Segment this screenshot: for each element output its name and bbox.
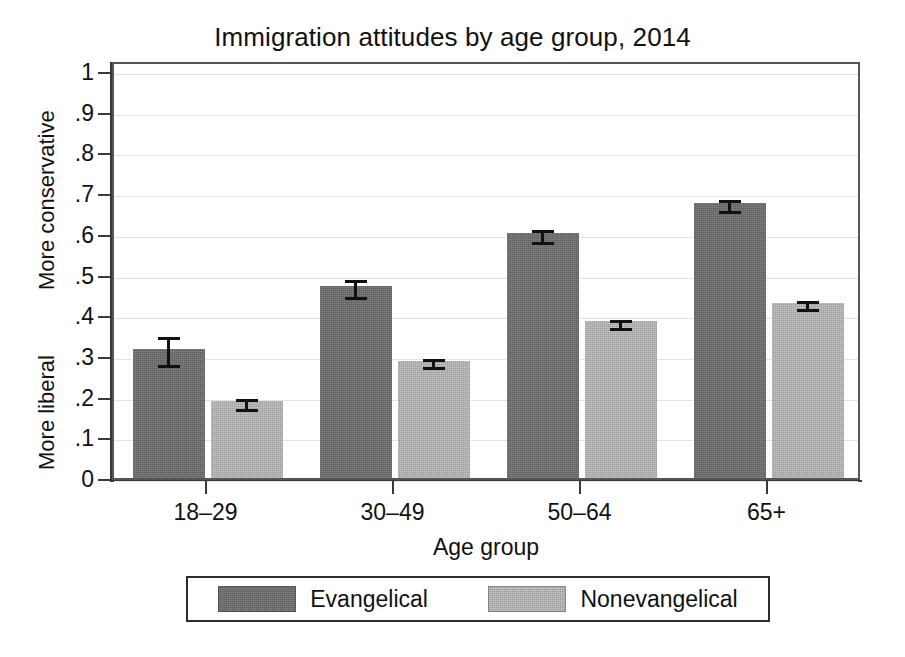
bar-evangelical-3 <box>694 203 766 478</box>
error-bar-cap-bottom <box>797 309 819 312</box>
plot-area <box>112 62 860 480</box>
error-bar-stem <box>167 337 170 368</box>
x-axis-tick-label: 30–49 <box>313 499 473 526</box>
error-bar-cap-bottom <box>532 242 554 245</box>
error-bar-cap-bottom <box>423 367 445 370</box>
y-axis-tick <box>98 72 111 74</box>
error-bar-cap-bottom <box>158 365 180 368</box>
legend-swatch-icon <box>218 586 296 612</box>
bar-nonevangelical-3 <box>772 303 844 478</box>
error-bar-cap-top <box>236 399 258 402</box>
error-bar-cap-top <box>797 301 819 304</box>
error-bar-cap-bottom <box>719 211 741 214</box>
y-axis-tick <box>98 235 111 237</box>
bar-evangelical-1 <box>320 286 392 478</box>
bar-nonevangelical-2 <box>585 321 657 478</box>
y-axis-title-conservative: More conservative <box>34 110 60 290</box>
y-axis-tick <box>98 438 111 440</box>
legend-label: Evangelical <box>310 586 428 613</box>
y-axis-tick <box>98 113 111 115</box>
y-axis-tick <box>98 398 111 400</box>
y-axis-tick <box>98 194 111 196</box>
x-axis-tick-label: 50–64 <box>500 499 660 526</box>
error-bar-cap-top <box>610 320 632 323</box>
y-axis-tick <box>98 479 111 481</box>
bar-evangelical-2 <box>507 233 579 478</box>
chart-figure: Immigration attitudes by age group, 2014… <box>0 0 905 657</box>
error-bar-cap-bottom <box>610 328 632 331</box>
bar-evangelical-0 <box>133 349 205 478</box>
error-bar-cap-bottom <box>345 297 367 300</box>
error-bar-cap-top <box>158 337 180 340</box>
chart-title: Immigration attitudes by age group, 2014 <box>0 22 905 53</box>
error-bar-cap-bottom <box>236 409 258 412</box>
legend-entry-evangelical[interactable]: Evangelical <box>218 586 428 613</box>
y-axis-tick <box>98 316 111 318</box>
y-axis-tick-label: 0 <box>42 468 94 491</box>
y-axis-tick <box>98 153 111 155</box>
legend-entry-nonevangelical[interactable]: Nonevangelical <box>488 586 737 613</box>
error-bar-cap-top <box>719 200 741 203</box>
gridline <box>114 115 858 116</box>
bar-nonevangelical-0 <box>211 401 283 478</box>
gridline <box>114 481 858 482</box>
x-axis-tick <box>579 481 581 494</box>
error-bar-cap-top <box>532 230 554 233</box>
x-axis-tick-label: 18–29 <box>126 499 286 526</box>
legend-label: Nonevangelical <box>580 586 737 613</box>
gridline <box>114 155 858 156</box>
gridline <box>114 196 858 197</box>
legend-swatch-icon <box>488 586 566 612</box>
error-bar-cap-top <box>345 280 367 283</box>
gridline <box>114 74 858 75</box>
y-axis-tick-label: 1 <box>42 61 94 84</box>
x-axis-tick-label: 65+ <box>687 499 847 526</box>
y-axis-tick-labels: 0.1.2.3.4.5.6.7.8.91 <box>32 0 94 657</box>
bar-nonevangelical-1 <box>398 361 470 478</box>
y-axis-title-liberal: More liberal <box>34 355 60 470</box>
x-axis-title: Age group <box>112 534 860 561</box>
y-axis-tick-label: .4 <box>42 305 94 328</box>
y-axis-tick <box>98 357 111 359</box>
x-axis-tick <box>205 481 207 494</box>
x-axis-tick <box>766 481 768 494</box>
error-bar-cap-top <box>423 359 445 362</box>
x-axis-tick <box>392 481 394 494</box>
y-axis-tick <box>98 276 111 278</box>
chart-legend: EvangelicalNonevangelical <box>186 576 770 622</box>
